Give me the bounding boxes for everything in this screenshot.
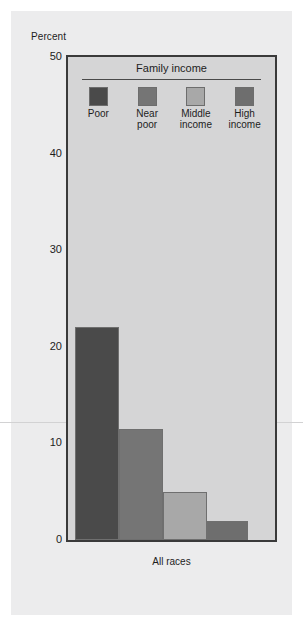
y-tick-label: 0	[28, 533, 62, 545]
legend-title: Family income	[68, 59, 275, 74]
legend-swatch-icon	[235, 87, 254, 106]
legend-item-label: Poor	[75, 109, 121, 120]
plot-area: Family income PoorNearpoorMiddleincomeHi…	[66, 55, 277, 542]
bar	[119, 429, 163, 540]
legend-item-label: income	[222, 120, 268, 131]
legend-item-label: Middle	[173, 109, 219, 120]
x-axis-label: All races	[66, 556, 277, 567]
bar	[207, 521, 248, 540]
legend-swatch-icon	[89, 87, 108, 106]
y-tick-label: 30	[28, 243, 62, 255]
legend-swatch-icon	[186, 87, 205, 106]
legend-item-label: Near	[124, 109, 170, 120]
legend-item[interactable]: Middleincome	[173, 87, 219, 130]
legend-item[interactable]: Poor	[75, 87, 121, 120]
legend-item[interactable]: Nearpoor	[124, 87, 170, 130]
legend: Family income PoorNearpoorMiddleincomeHi…	[68, 59, 275, 130]
legend-item-label: income	[173, 120, 219, 131]
y-tick-label: 50	[28, 50, 62, 62]
bar	[163, 492, 207, 540]
y-tick-label: 10	[28, 436, 62, 448]
legend-item-label: High	[222, 109, 268, 120]
chart-figure: Percent 50403020100 Family income PoorNe…	[0, 0, 303, 626]
bar	[75, 327, 119, 540]
legend-swatch-icon	[138, 87, 157, 106]
legend-item[interactable]: Highincome	[222, 87, 268, 130]
y-tick-label: 20	[28, 340, 62, 352]
y-tick-label: 40	[28, 147, 62, 159]
y-axis-ticks: 50403020100	[26, 0, 62, 626]
legend-item-label: poor	[124, 120, 170, 131]
legend-items: PoorNearpoorMiddleincomeHighincome	[68, 80, 275, 130]
